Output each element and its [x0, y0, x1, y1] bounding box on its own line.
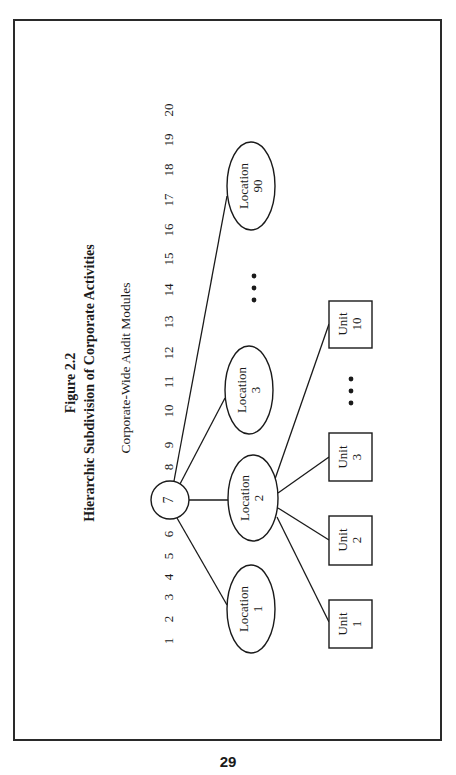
- module-number: 1: [161, 638, 176, 645]
- unit-label: Unit: [335, 445, 350, 469]
- unit-number: 1: [349, 621, 364, 628]
- edge-location-2-unit-10: [275, 324, 329, 479]
- location-number: 1: [250, 606, 265, 613]
- module-number: 2: [161, 616, 176, 623]
- module-number: 16: [161, 223, 176, 237]
- unit-node-1[interactable]: Unit 1: [329, 600, 372, 648]
- module-number: 17: [161, 193, 176, 207]
- module-number: 6: [161, 530, 176, 537]
- figure-title: Hierarchic Subdivision of Corporate Acti…: [82, 244, 97, 522]
- module-number: 3: [161, 594, 176, 601]
- module-number: 5: [161, 553, 176, 560]
- location-number: 2: [251, 495, 266, 502]
- figure-heading: Figure 2.2 Hierarchic Subdivision of Cor…: [63, 244, 133, 522]
- module-number: 15: [161, 253, 176, 266]
- unit-node-3[interactable]: Unit 3: [329, 433, 372, 481]
- location-number: 90: [250, 180, 265, 193]
- root-label: 7: [161, 497, 176, 504]
- module-number: 19: [161, 134, 176, 147]
- unit-node-2[interactable]: Unit 2: [329, 516, 372, 565]
- page: Figure 2.2 Hierarchic Subdivision of Cor…: [0, 0, 456, 775]
- location-number: 3: [248, 387, 263, 394]
- axis-caption: Corporate-Wide Audit Modules: [118, 282, 133, 453]
- root-node[interactable]: 7: [151, 481, 189, 519]
- module-number: 14: [161, 283, 176, 297]
- units-ellipsis-icon: [349, 377, 354, 406]
- module-number: 20: [161, 104, 176, 117]
- page-number: 29: [220, 753, 237, 770]
- unit-label: Unit: [335, 528, 350, 552]
- unit-label: Unit: [335, 312, 350, 336]
- edge-root-location-1: [177, 518, 227, 605]
- module-number: 8: [161, 464, 176, 471]
- module-number: 4: [161, 573, 176, 580]
- figure-label: Figure 2.2: [63, 353, 78, 413]
- edge-root-location-90: [174, 196, 227, 481]
- module-number-row: 1 2 3 4 5 6 8 9 10 11 12 13 14 15 16 17 …: [161, 104, 176, 645]
- locations-ellipsis-icon: [252, 274, 257, 303]
- module-number: 13: [161, 316, 176, 329]
- unit-number: 10: [349, 318, 364, 331]
- location-node-90[interactable]: Location 90: [227, 142, 275, 230]
- unit-number: 3: [349, 454, 364, 461]
- location-label: Location: [236, 585, 251, 632]
- diagram-canvas: Figure 2.2 Hierarchic Subdivision of Cor…: [0, 0, 456, 775]
- module-number: 9: [161, 442, 176, 449]
- edge-location-2-unit-1: [277, 517, 329, 622]
- module-number: 11: [161, 376, 176, 389]
- location-label: Location: [234, 366, 249, 413]
- unit-number: 2: [349, 537, 364, 544]
- location-label: Location: [236, 162, 251, 209]
- unit-label: Unit: [335, 612, 350, 636]
- edge-location-2-unit-3: [278, 457, 329, 493]
- location-node-1[interactable]: Location 1: [227, 565, 275, 653]
- module-number: 18: [161, 164, 176, 177]
- location-node-2[interactable]: Location 2: [228, 455, 278, 541]
- module-number: 12: [161, 347, 176, 360]
- location-label: Location: [237, 474, 252, 521]
- unit-node-10[interactable]: Unit 10: [329, 301, 372, 348]
- location-node-3[interactable]: Location 3: [225, 346, 273, 434]
- module-number: 10: [161, 405, 176, 418]
